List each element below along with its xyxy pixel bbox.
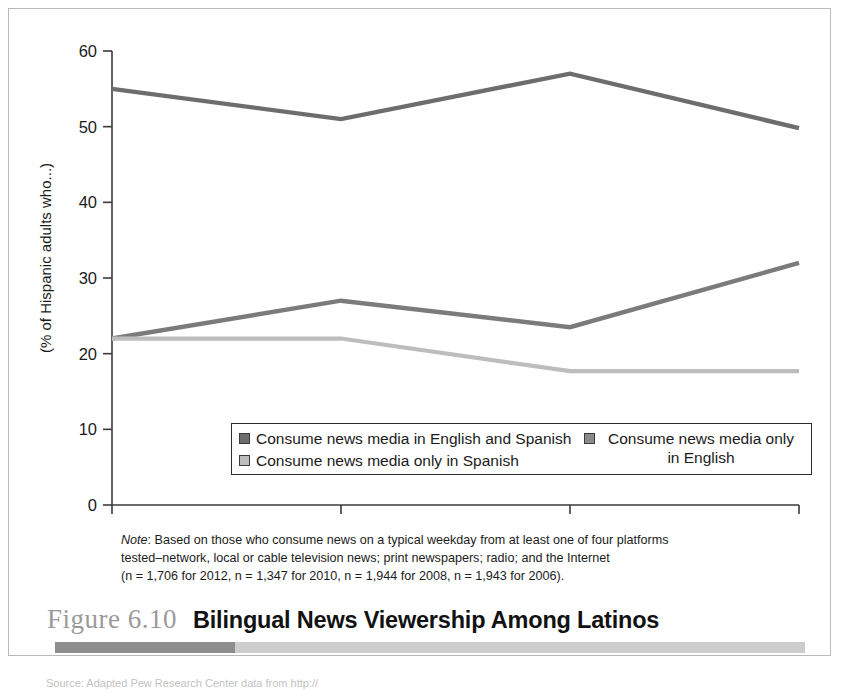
- y-axis-title: (% of Hispanic adults who...): [37, 163, 54, 353]
- page-title: Bilingual News Viewership Among Latinos: [193, 607, 659, 634]
- chart-series-line: [112, 339, 799, 372]
- y-tick-label: 50: [79, 118, 97, 136]
- x-axis-ticks: 2006200820102012: [94, 505, 818, 514]
- figure-page: 0102030405060 2006200820102012 (% of His…: [0, 0, 843, 691]
- note-label: Note: [121, 533, 148, 547]
- y-tick-label: 30: [79, 269, 97, 287]
- y-tick-label: 40: [79, 193, 97, 211]
- source-credit: Source: Adapted Pew Research Center data…: [46, 676, 836, 690]
- legend-item-only-spanish[interactable]: Consume news media only in Spanish: [239, 451, 519, 470]
- figure-note: Note: Based on those who consume news on…: [121, 531, 761, 585]
- y-tick-label: 0: [88, 496, 97, 514]
- caption-rule-bar: [55, 642, 805, 653]
- y-axis-ticks: 0102030405060: [79, 42, 112, 514]
- figure-caption: Figure 6.10 Bilingual News Viewership Am…: [47, 604, 659, 635]
- rule-bar-light-segment: [235, 642, 805, 653]
- legend-swatch-icon: [584, 433, 595, 444]
- y-tick-label: 10: [79, 420, 97, 438]
- legend-swatch-icon: [239, 433, 250, 444]
- legend-item-label: Consume news media in English and Spanis…: [256, 429, 571, 448]
- note-line-1: Note: Based on those who consume news on…: [121, 531, 761, 549]
- legend-item-english-and-spanish[interactable]: Consume news media in English and Spanis…: [239, 429, 571, 448]
- figure-number: Figure 6.10: [47, 604, 177, 635]
- note-line-1-text: : Based on those who consume news on a t…: [148, 533, 669, 547]
- legend-item-only-english[interactable]: Consume news media only in English: [584, 429, 809, 467]
- legend-item-label: Consume news media only in Spanish: [256, 451, 519, 470]
- figure-frame: 0102030405060 2006200820102012 (% of His…: [8, 8, 831, 656]
- note-line-3: (n = 1,706 for 2012, n = 1,347 for 2010,…: [121, 567, 761, 585]
- note-line-2: tested–network, local or cable televisio…: [121, 549, 761, 567]
- y-tick-label: 20: [79, 345, 97, 363]
- chart-series-line: [112, 74, 799, 128]
- chart-legend: Consume news media in English and Spanis…: [231, 423, 812, 475]
- legend-grid: Consume news media in English and Spanis…: [239, 428, 804, 470]
- legend-swatch-icon: [239, 455, 250, 466]
- legend-item-label: Consume news media only in English: [601, 429, 801, 467]
- y-tick-label: 60: [79, 42, 97, 60]
- chart-series-group: [112, 74, 799, 371]
- chart-series-line: [112, 263, 799, 339]
- rule-bar-dark-segment: [55, 642, 235, 653]
